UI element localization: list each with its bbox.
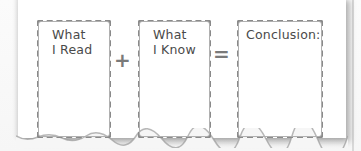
what-i-read-label: What I Read bbox=[52, 27, 92, 57]
what-i-know-box: What I Know bbox=[138, 20, 211, 138]
conclusion-box: Conclusion: bbox=[237, 20, 323, 138]
conclusion-label: Conclusion: bbox=[246, 27, 321, 42]
label-line: I Know bbox=[153, 42, 196, 57]
vertical-divider bbox=[352, 0, 354, 151]
what-i-read-box: What I Read bbox=[37, 20, 111, 138]
plus-sign-icon: + bbox=[114, 50, 131, 70]
worksheet-graphic: What I Read + What I Know = Conclusion: bbox=[0, 0, 361, 151]
label-line: Conclusion: bbox=[246, 27, 321, 42]
label-line: I Read bbox=[52, 42, 92, 57]
equals-sign-icon: = bbox=[213, 44, 230, 64]
what-i-know-label: What I Know bbox=[153, 27, 196, 57]
label-line: What bbox=[153, 27, 196, 42]
label-line: What bbox=[52, 27, 92, 42]
